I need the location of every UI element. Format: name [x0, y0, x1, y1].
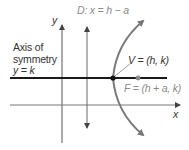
axis-of-symmetry-label: Axis of symmetry y = k	[13, 42, 57, 77]
directrix-label: D: x = h − a	[77, 5, 129, 16]
focus-point	[136, 76, 141, 81]
axis-of-symmetry-label-line3: y = k	[13, 65, 57, 77]
vertex-label: V = (h, k)	[128, 55, 169, 66]
parabola-diagram: y D: x = h − a Axis of symmetry y = k V …	[0, 0, 189, 150]
y-axis-label: y	[52, 15, 57, 26]
x-axis-label: x	[173, 109, 178, 120]
axis-of-symmetry-label-line1: Axis of	[13, 42, 57, 54]
focus-label: F = (h + a, k)	[124, 83, 181, 94]
vertex-point	[110, 75, 115, 80]
